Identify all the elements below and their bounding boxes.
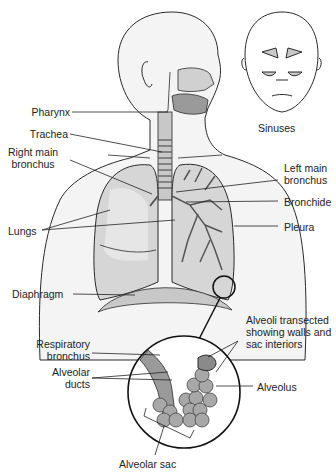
label-right-main-bronchus-line1: Right main [2,146,64,158]
sinuses-face [242,12,321,112]
tongue [172,94,208,114]
label-right-main-bronchus-line2: bronchus [2,158,64,170]
label-pharynx: Pharynx [0,106,70,118]
label-alveolar-ducts-line2: ducts [0,378,90,390]
label-trachea: Trachea [0,128,68,140]
label-alveoli-transected-line1: Alveoli transected [246,314,329,326]
alveoli-magnified-circle [128,336,240,448]
label-alveolar-sac: Alveolar sac [119,458,176,470]
anatomy-illustration [0,0,336,476]
trachea-shape [158,112,172,200]
respiratory-diagram: Pharynx Trachea Right main bronchus Lung… [0,0,336,476]
label-left-main-bronchus-line2: bronchus [284,174,327,186]
label-alveoli-transected-line2: showing walls and [246,326,331,338]
label-sinuses: Sinuses [258,122,295,134]
label-left-main-bronchus-line1: Left main [284,162,327,174]
label-alveolar-ducts-line1: Alveolar [0,366,90,378]
label-pleura: Pleura [284,221,314,233]
label-diaphragm: Diaphragm [12,288,63,300]
label-respiratory-bronchus-line2: bronchus [0,350,90,362]
label-lungs: Lungs [8,225,37,237]
label-alveoli-transected-line3: sac interiors [246,338,303,350]
label-respiratory-bronchus-line1: Respiratory [0,338,90,350]
label-bronchide: Bronchide [284,196,331,208]
label-alveolus: Alveolus [257,381,297,393]
